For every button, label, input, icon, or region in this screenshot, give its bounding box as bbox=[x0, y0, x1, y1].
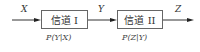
edge-label-x: X bbox=[21, 4, 27, 14]
edge-label-y: Y bbox=[98, 4, 104, 14]
channel-1-box: 信道 I bbox=[41, 10, 88, 29]
channel-1-label: 信道 I bbox=[51, 12, 78, 27]
channel-2-label: 信道 II bbox=[124, 12, 155, 27]
channel-1-prob: P(Y|X) bbox=[46, 33, 71, 42]
edge-label-z: Z bbox=[175, 4, 181, 14]
channel-2-box: 信道 II bbox=[117, 10, 163, 29]
channel-2-prob: P(Z|Y) bbox=[122, 33, 147, 42]
